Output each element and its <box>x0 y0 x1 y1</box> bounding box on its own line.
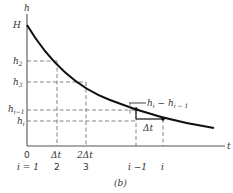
point-i <box>161 117 165 121</box>
y-axis-label: h <box>24 3 30 13</box>
decay-curve <box>27 25 214 128</box>
y-tick-h3: h3 <box>13 77 23 88</box>
x-axis-label: t <box>227 141 231 151</box>
x-index-i: i <box>161 162 164 172</box>
x-index-2: 2 <box>54 162 60 172</box>
step-label: Δt <box>142 123 153 133</box>
difference-label: hi − hi − 1 <box>147 98 188 109</box>
y-tick-H: H <box>12 20 21 30</box>
y-tick-hi-1: hi−1 <box>8 104 25 115</box>
x-index-i-1: i −1 <box>128 162 147 172</box>
y-tick-h2: h2 <box>13 56 23 67</box>
x-index-1: i = 1 <box>17 162 39 172</box>
y-tick-hi: hi <box>17 116 25 127</box>
x-tick-dt: Δt <box>50 150 61 160</box>
point-i-1 <box>134 107 138 111</box>
x-tick-0: 0 <box>24 150 30 160</box>
x-index-3: 3 <box>83 162 89 172</box>
decay-diagram: h t hi − hi − 1 Δt H h2 h3 hi−1 hi 0 Δt … <box>0 0 233 193</box>
x-tick-2dt: 2Δt <box>76 150 93 160</box>
figure-caption: (b) <box>114 178 127 188</box>
